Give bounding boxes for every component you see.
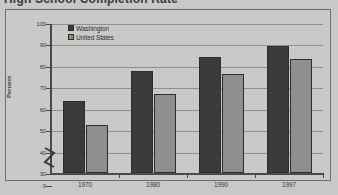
x-axis-label-1997: 1997 bbox=[266, 181, 312, 188]
x-axis-label-1990: 1990 bbox=[198, 181, 244, 188]
x-axis-label-1970: 1970 bbox=[62, 181, 108, 188]
bar-washington-1997 bbox=[267, 46, 289, 174]
x-axis-tick bbox=[323, 173, 324, 178]
chart-frame: Percent 030405060708090100 1970198019901… bbox=[5, 9, 331, 181]
y-axis-tick-label: 80 bbox=[28, 63, 46, 69]
x-axis-tick bbox=[119, 173, 120, 178]
bar-united-states-1997 bbox=[290, 59, 312, 173]
bar-washington-1970 bbox=[63, 101, 85, 173]
bar-united-states-1990 bbox=[222, 74, 244, 173]
chart-title-strip: High School Completion Rate bbox=[0, 0, 338, 9]
x-axis-tick bbox=[255, 173, 256, 178]
y-axis-tick-label: 50 bbox=[28, 128, 46, 134]
y-axis-tick-label: 100 bbox=[28, 21, 46, 27]
legend-label-washington: Washington bbox=[76, 25, 109, 32]
bars-layer bbox=[51, 24, 323, 173]
bar-washington-1980 bbox=[131, 71, 153, 173]
x-axis-label-1980: 1980 bbox=[130, 181, 176, 188]
y-axis-tick-label: 60 bbox=[28, 106, 46, 112]
y-axis-title: Percent bbox=[6, 76, 12, 98]
legend-swatch-washington bbox=[68, 25, 74, 31]
chart-legend: Washington United States bbox=[66, 22, 117, 44]
chart-title: High School Completion Rate bbox=[4, 0, 178, 6]
bar-united-states-1980 bbox=[154, 94, 176, 173]
legend-item: United States bbox=[68, 33, 114, 41]
x-axis-tick bbox=[187, 173, 188, 178]
legend-item: Washington bbox=[68, 24, 114, 32]
y-axis-tick-label: 90 bbox=[28, 42, 46, 48]
y-axis-tick-label: 0 bbox=[28, 183, 46, 189]
legend-label-united-states: United States bbox=[76, 34, 114, 41]
bar-washington-1990 bbox=[199, 57, 221, 173]
legend-swatch-united-states bbox=[68, 34, 74, 40]
chart-root: High School Completion Rate Percent 0304… bbox=[0, 0, 338, 195]
bar-united-states-1970 bbox=[86, 125, 108, 173]
y-axis-tick-label: 70 bbox=[28, 85, 46, 91]
y-axis-tick bbox=[46, 186, 52, 187]
